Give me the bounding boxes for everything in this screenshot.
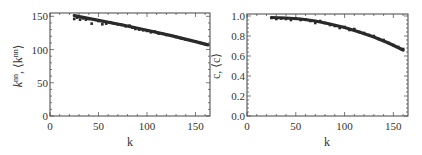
y-tick-label: 0.4 — [231, 70, 245, 82]
x-tick-label: 150 — [385, 120, 402, 132]
data-point — [392, 44, 395, 47]
data-point — [184, 38, 187, 41]
data-point — [87, 18, 90, 21]
data-point — [105, 22, 108, 25]
x-tick-label: 50 — [290, 120, 302, 132]
data-point — [146, 30, 149, 33]
y-tick-label: 50 — [37, 77, 49, 89]
data-point — [97, 20, 100, 23]
data-point — [82, 17, 85, 20]
data-point — [157, 32, 160, 35]
y-ticks: 0.00.20.40.60.81.0 — [231, 10, 408, 122]
data-point — [194, 40, 197, 43]
data-point — [343, 26, 346, 29]
data-point — [128, 24, 131, 27]
data-point — [294, 17, 297, 20]
data-point — [153, 30, 156, 33]
data-point — [363, 32, 366, 35]
data-point — [93, 18, 96, 21]
y-tick-label: 100 — [32, 44, 49, 56]
y-ticks: 050100150 — [32, 10, 211, 122]
chart-c-vs-k: 050100150 0.00.20.40.60.81.0 k c, ⟨c⟩ — [211, 0, 422, 155]
data-point — [165, 34, 168, 37]
x-axis-label: k — [127, 135, 133, 149]
data-series — [73, 16, 208, 46]
data-point — [397, 46, 400, 49]
y-tick-label: 0 — [43, 110, 49, 122]
plot-frame — [50, 13, 210, 116]
data-point — [309, 20, 312, 23]
y-axis-label: c, ⟨c⟩ — [211, 53, 223, 79]
data-point — [377, 38, 380, 41]
data-point — [109, 21, 112, 24]
y-tick-label: 0.0 — [231, 110, 245, 122]
data-point — [124, 25, 127, 28]
x-tick-label: 100 — [139, 120, 156, 132]
data-point — [299, 19, 302, 22]
x-tick-label: 0 — [244, 120, 250, 132]
data-point — [358, 31, 361, 34]
y-tick-label: 0.2 — [231, 90, 245, 102]
data-point — [113, 22, 116, 25]
data-point — [304, 18, 307, 21]
data-point — [329, 24, 332, 27]
plot-frame — [247, 14, 408, 116]
x-ticks: 050100150 — [244, 14, 403, 132]
data-point — [204, 43, 207, 46]
data-point — [134, 28, 137, 31]
data-point — [120, 24, 123, 27]
data-point — [150, 31, 153, 34]
x-tick-label: 50 — [93, 120, 105, 132]
data-point — [334, 25, 337, 28]
data-series — [270, 17, 404, 51]
y-tick-label: 150 — [32, 10, 49, 22]
data-point — [314, 22, 317, 25]
data-point — [175, 36, 178, 39]
y-tick-label: 0.8 — [231, 30, 245, 42]
data-point — [199, 42, 202, 45]
data-point — [338, 27, 341, 30]
data-point — [290, 19, 293, 22]
data-point — [319, 20, 322, 23]
data-point — [117, 23, 120, 26]
data-point — [189, 39, 192, 42]
x-tick-label: 150 — [187, 120, 204, 132]
data-point — [382, 39, 385, 42]
chart-knn-vs-k: 050100150 050100150 k knn, ⟨knn⟩ — [0, 0, 211, 155]
y-tick-label: 1.0 — [231, 10, 245, 22]
data-point — [348, 29, 351, 32]
fit-line — [271, 18, 403, 51]
data-point — [90, 22, 93, 25]
data-point — [387, 42, 390, 45]
data-point — [138, 28, 141, 31]
x-tick-label: 0 — [47, 120, 53, 132]
data-point — [76, 16, 79, 19]
data-point — [324, 22, 327, 25]
y-tick-label: 0.6 — [231, 50, 245, 62]
data-point — [131, 26, 134, 29]
data-point — [368, 34, 371, 37]
data-point — [73, 18, 76, 21]
data-point — [353, 28, 356, 31]
data-point — [142, 29, 145, 32]
data-point — [280, 17, 283, 20]
chart-knn-svg: 050100150 050100150 k knn, ⟨knn⟩ — [0, 0, 211, 155]
chart-c-svg: 050100150 0.00.20.40.60.81.0 k c, ⟨c⟩ — [211, 0, 422, 155]
data-point — [161, 32, 164, 35]
data-point — [275, 18, 278, 21]
data-point — [101, 23, 104, 26]
x-tick-label: 100 — [336, 120, 353, 132]
data-point — [180, 37, 183, 40]
y-axis-label: knn, ⟨knn⟩ — [11, 45, 26, 88]
x-axis-label: k — [324, 135, 330, 149]
data-point — [402, 48, 405, 51]
data-point — [373, 35, 376, 38]
data-point — [285, 18, 288, 21]
x-ticks: 050100150 — [47, 13, 205, 132]
data-point — [79, 18, 82, 21]
data-point — [85, 18, 88, 21]
data-point — [270, 17, 273, 20]
data-point — [170, 34, 173, 37]
